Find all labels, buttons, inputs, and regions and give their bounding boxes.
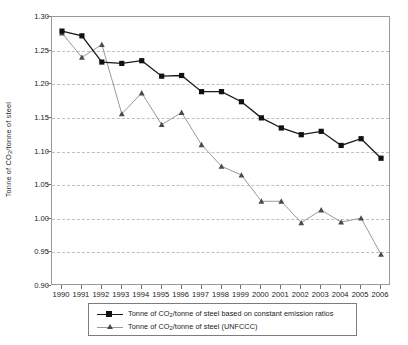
legend-label-2-post: /tonne of steel (UNFCCC) (173, 322, 258, 331)
data-point-square (319, 129, 324, 134)
y-tick-label: 1.05 (3, 180, 49, 189)
legend-label-series-1: Tonne of CO2/tonne of steel based on con… (128, 309, 333, 318)
legend-item-constant-emission-ratios[interactable]: Tonne of CO2/tonne of steel based on con… (95, 308, 356, 320)
x-tick-mark (121, 285, 122, 289)
x-tick-mark (181, 285, 182, 289)
data-point-square (99, 59, 104, 64)
data-point-square (259, 115, 264, 120)
legend-label-2-pre: Tonne of CO (128, 322, 170, 331)
series-line (62, 31, 381, 158)
data-point-triangle (99, 42, 105, 47)
legend-label-series-2: Tonne of CO2/tonne of steel (UNFCCC) (128, 322, 257, 331)
data-point-square (199, 89, 204, 94)
x-tick-mark (360, 285, 361, 289)
x-tick-label: 2006 (365, 290, 395, 299)
data-point-triangle (239, 172, 245, 177)
legend-item-unfccc[interactable]: Tonne of CO2/tonne of steel (UNFCCC) (95, 321, 356, 333)
data-point-triangle (358, 215, 364, 220)
legend-label-1-post: /tonne of steel based on constant emissi… (173, 309, 334, 318)
y-tick-label: 1.25 (3, 45, 49, 54)
chart-figure: Tonne of CO2/tonne of steel 0.900.951.00… (0, 0, 408, 345)
x-tick-mark (380, 285, 381, 289)
y-tick-label: 1.10 (3, 146, 49, 155)
y-tick-label: 0.95 (3, 247, 49, 256)
x-tick-mark (280, 285, 281, 289)
series-lines (52, 17, 391, 286)
y-tick-label: 1.15 (3, 112, 49, 121)
y-axis-title-pre: Tonne of CO (4, 154, 13, 197)
data-point-square (219, 89, 224, 94)
data-point-triangle (139, 90, 145, 95)
chart-legend: Tonne of CO2/tonne of steel based on con… (88, 303, 357, 336)
x-tick-mark (201, 285, 202, 289)
x-tick-mark (320, 285, 321, 289)
data-point-square (179, 73, 184, 78)
x-tick-mark (101, 285, 102, 289)
data-point-square (139, 58, 144, 63)
data-point-triangle (159, 122, 165, 127)
data-point-triangle (179, 110, 185, 115)
y-tick-label: 1.00 (3, 213, 49, 222)
y-axis-title-post: /tonne of steel (4, 102, 13, 151)
data-point-square (159, 74, 164, 79)
y-tick-label: 1.20 (3, 79, 49, 88)
legend-marker-triangle-icon (95, 322, 125, 332)
series-line (62, 33, 381, 254)
data-layer (52, 17, 389, 284)
x-tick-mark (240, 285, 241, 289)
x-tick-mark (161, 285, 162, 289)
x-tick-mark (340, 285, 341, 289)
x-tick-mark (260, 285, 261, 289)
y-tick-label: 0.90 (3, 281, 49, 290)
data-point-square (279, 125, 284, 130)
data-point-square (79, 33, 84, 38)
x-tick-mark (300, 285, 301, 289)
y-tick-mark (47, 285, 51, 286)
plot-area (51, 16, 390, 285)
data-point-square (358, 136, 363, 141)
legend-marker-square-icon (95, 309, 125, 319)
data-point-square (239, 99, 244, 104)
x-tick-mark (141, 285, 142, 289)
data-point-square (378, 156, 383, 161)
data-point-triangle (199, 142, 205, 147)
x-tick-mark (221, 285, 222, 289)
data-point-square (119, 61, 124, 66)
data-point-triangle (318, 207, 324, 212)
legend-label-1-pre: Tonne of CO (128, 309, 170, 318)
data-point-square (339, 143, 344, 148)
y-tick-label: 1.30 (3, 12, 49, 21)
data-point-square (299, 132, 304, 137)
x-tick-mark (81, 285, 82, 289)
data-point-triangle (378, 251, 384, 256)
x-tick-mark (61, 285, 62, 289)
data-point-square (59, 29, 64, 34)
